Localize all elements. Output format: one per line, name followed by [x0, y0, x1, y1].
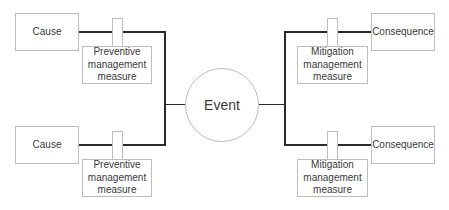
- barrier-tab: [327, 18, 338, 47]
- barrier-label: Mitigation management measure: [302, 46, 364, 84]
- mitigation-barrier-box: Mitigation management measure: [297, 159, 368, 197]
- cause-box: Cause: [15, 13, 79, 51]
- connector-line: [164, 31, 166, 146]
- preventive-barrier-box: Preventive management measure: [82, 46, 152, 84]
- mitigation-barrier-box: Mitigation management measure: [297, 46, 368, 84]
- cause-label: Cause: [33, 139, 62, 152]
- connector-line: [164, 104, 186, 105]
- cause-box: Cause: [15, 126, 79, 164]
- barrier-label: Preventive management measure: [86, 159, 148, 197]
- barrier-tab: [112, 131, 123, 160]
- consequence-label: Consequence: [372, 139, 434, 152]
- barrier-tab: [327, 131, 338, 160]
- event-label: Event: [204, 97, 240, 113]
- event-node: Event: [185, 68, 259, 142]
- consequence-label: Consequence: [372, 26, 434, 39]
- preventive-barrier-box: Preventive management measure: [82, 159, 152, 197]
- connector-line: [284, 31, 286, 146]
- connector-line: [258, 104, 285, 105]
- barrier-label: Preventive management measure: [86, 46, 148, 84]
- cause-label: Cause: [33, 26, 62, 39]
- consequence-box: Consequence: [371, 126, 435, 164]
- consequence-box: Consequence: [371, 13, 435, 51]
- barrier-tab: [112, 18, 123, 47]
- barrier-label: Mitigation management measure: [302, 159, 364, 197]
